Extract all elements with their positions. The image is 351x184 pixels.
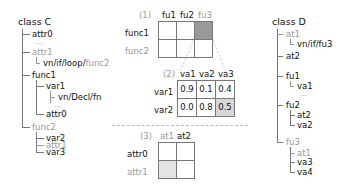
branch: [290, 115, 295, 116]
matrix-2-cell: 0.1: [196, 80, 216, 99]
node-va1-more: ...: [300, 89, 307, 99]
matrix-2-cell: 0.0: [177, 98, 197, 117]
node-fu3: fu3: [286, 137, 300, 147]
node-at1: at1: [286, 29, 300, 39]
branch: [290, 110, 291, 125]
matrix-2-cell: 0.9: [177, 80, 197, 99]
branch: [277, 142, 283, 143]
branch: [277, 105, 283, 106]
matrix-3-label: (3): [140, 131, 152, 141]
branch: [290, 153, 295, 154]
matrix-2-cell: 0.8: [196, 98, 216, 117]
matrix-3-cell: [158, 142, 177, 161]
matrix-2-col: va1: [180, 69, 196, 79]
matrix-3-col: at2: [177, 131, 191, 141]
branch: [290, 86, 294, 87]
matrix-3-cell: [176, 142, 195, 161]
matrix-2-cell: 0.4: [215, 80, 235, 99]
matrix-2-row: var2: [154, 105, 173, 115]
class-d-title: class D: [272, 17, 306, 27]
matrix-2-col: va2: [199, 69, 215, 79]
tree-trunk: [277, 29, 278, 142]
node-at1-path: vn/if/fu3: [297, 39, 332, 49]
separator-line: [112, 125, 248, 126]
matrix-2-cell-highlight: 0.5: [215, 98, 235, 117]
node-va2: va2: [297, 120, 313, 130]
branch: [290, 172, 295, 173]
node-va3: va3: [297, 157, 313, 167]
node-fu2: fu2: [286, 100, 300, 110]
matrix-2-row: var1: [154, 87, 173, 97]
node-at2: at2: [286, 51, 300, 61]
node-fu1: fu1: [286, 71, 300, 81]
node-fu2-at2: at2: [297, 110, 311, 120]
matrix-2-col: va3: [218, 69, 234, 79]
branch: [290, 147, 291, 172]
node-va4: va4: [297, 167, 313, 177]
matrix-2-label: (2): [163, 69, 175, 79]
matrix-3-row: attr0: [127, 149, 148, 159]
branch: [277, 34, 283, 35]
branch: [277, 56, 283, 57]
branch: [290, 44, 294, 45]
matrix-3-cell: [176, 160, 195, 179]
branch: [290, 162, 295, 163]
matrix-3-row: attr1: [127, 167, 148, 177]
matrix-3-cell-highlight: [158, 160, 177, 179]
branch: [290, 125, 295, 126]
matrix-3-col: at1: [160, 131, 174, 141]
branch: [277, 76, 283, 77]
